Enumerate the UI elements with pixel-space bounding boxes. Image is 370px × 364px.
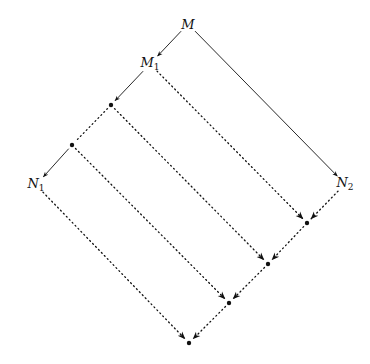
edge-n2-to-b1 xyxy=(311,191,338,219)
node-label-text: M xyxy=(140,55,153,70)
edge-m-to-n2 xyxy=(195,31,337,176)
node-label-m1: M1 xyxy=(140,56,159,72)
diagram-edges xyxy=(0,0,370,364)
node-label-text: N xyxy=(27,176,38,191)
node-label-text: M xyxy=(181,17,194,32)
node-label-m: M xyxy=(181,18,194,31)
edge-b3-to-b4 xyxy=(193,307,225,339)
commutative-diagram: MM1N1N2 xyxy=(0,0,370,364)
node-label-subscript: 2 xyxy=(348,182,354,192)
node-dot-b4 xyxy=(187,341,191,345)
edge-b2-to-b3 xyxy=(233,268,264,299)
edge-m1-to-a1 xyxy=(115,71,143,101)
node-dot-a2 xyxy=(70,143,74,147)
edge-n1-to-b4 xyxy=(43,192,185,339)
edge-a2-to-n1 xyxy=(43,149,68,177)
edge-m-to-m1 xyxy=(158,31,182,56)
node-label-n1: N1 xyxy=(27,177,44,193)
node-dot-b3 xyxy=(227,301,231,305)
node-dot-b1 xyxy=(305,221,309,225)
node-dot-b2 xyxy=(266,262,270,266)
edge-a1-to-a2 xyxy=(76,109,107,141)
node-label-n2: N2 xyxy=(336,176,353,192)
edge-a1-to-b2 xyxy=(115,109,264,260)
node-label-subscript: 1 xyxy=(154,62,160,72)
edge-m1-to-b1 xyxy=(157,71,303,219)
node-label-subscript: 1 xyxy=(39,183,45,193)
edge-b1-to-b2 xyxy=(272,227,304,260)
edge-a2-to-b3 xyxy=(76,149,225,299)
node-dot-a1 xyxy=(109,103,113,107)
node-label-text: N xyxy=(336,175,347,190)
